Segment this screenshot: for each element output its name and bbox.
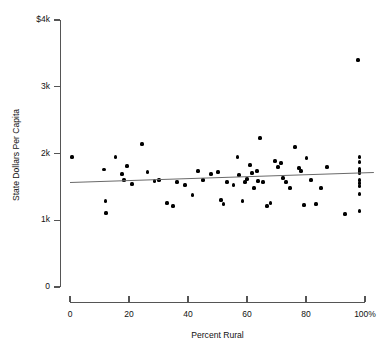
data-point (293, 145, 296, 148)
data-point (256, 179, 259, 182)
y-tick-4000 (54, 19, 60, 20)
data-point (236, 155, 239, 158)
data-point (241, 199, 244, 202)
y-tick-label-3000: 3k (24, 82, 50, 91)
data-point (146, 170, 149, 173)
y-axis-title: State Dollars Per Capita (11, 95, 21, 215)
data-point (356, 58, 359, 61)
x-tick-40 (187, 296, 188, 302)
data-point (252, 186, 255, 189)
data-point (175, 180, 178, 183)
data-point (325, 165, 328, 168)
y-tick-label-2000: 2k (24, 149, 50, 158)
data-point (281, 176, 284, 179)
data-point (279, 161, 282, 164)
data-point (309, 178, 312, 181)
data-point (299, 169, 302, 172)
data-point (219, 198, 222, 201)
data-point (140, 142, 143, 145)
x-axis-title: Percent Rural (70, 330, 365, 340)
x-tick-label-0: 0 (50, 310, 90, 319)
data-point (225, 180, 228, 183)
data-point (250, 171, 253, 174)
y-tick-1000 (54, 220, 60, 221)
data-point (104, 211, 107, 214)
data-point (358, 160, 361, 163)
data-point (222, 202, 225, 205)
data-point (265, 204, 268, 207)
x-tick-0 (69, 296, 70, 302)
data-point (165, 201, 168, 204)
x-tick-20 (128, 296, 129, 302)
x-tick-100 (364, 296, 365, 302)
y-tick-label-4000: $4k (24, 15, 50, 24)
data-point (358, 155, 361, 158)
data-point (104, 199, 107, 202)
data-point (130, 182, 133, 185)
data-point (284, 180, 287, 183)
data-point (258, 136, 261, 139)
data-point (305, 156, 308, 159)
data-point (245, 177, 248, 180)
y-tick-label-0: 0 (24, 282, 50, 291)
x-tick-label-80: 80 (286, 310, 326, 319)
x-tick-label-40: 40 (168, 310, 208, 319)
y-axis-line (60, 20, 61, 287)
data-point (248, 163, 251, 166)
data-point (302, 203, 305, 206)
data-point (273, 159, 276, 162)
data-point (358, 209, 361, 212)
x-tick-label-60: 60 (227, 310, 267, 319)
data-point (269, 201, 272, 204)
y-tick-label-1000: 1k (24, 215, 50, 224)
data-point (120, 172, 123, 175)
data-point (70, 155, 73, 158)
data-point (314, 202, 317, 205)
data-point (358, 184, 361, 187)
data-point (276, 165, 279, 168)
x-tick-label-100: 100% (345, 310, 385, 319)
data-point (102, 168, 105, 171)
data-point (209, 172, 212, 175)
plot-area: State Dollars Per Capita Percent Rural 0… (0, 0, 387, 359)
scatter-chart: State Dollars Per Capita Percent Rural 0… (0, 0, 387, 359)
x-tick-80 (305, 296, 306, 302)
data-point (343, 212, 346, 215)
data-point (201, 178, 204, 181)
data-point (191, 193, 194, 196)
data-point (125, 164, 128, 167)
y-tick-0 (54, 286, 60, 287)
data-point (171, 204, 174, 207)
data-point (261, 180, 264, 183)
y-tick-3000 (54, 86, 60, 87)
trend-line (70, 172, 374, 183)
x-tick-label-20: 20 (109, 310, 149, 319)
data-point (288, 186, 291, 189)
data-point (358, 192, 361, 195)
data-point (319, 186, 322, 189)
data-point (243, 180, 246, 183)
data-point (196, 169, 199, 172)
x-tick-60 (246, 296, 247, 302)
data-point (183, 183, 186, 186)
data-point (114, 155, 117, 158)
data-point (232, 183, 235, 186)
data-point (255, 169, 258, 172)
y-tick-2000 (54, 153, 60, 154)
data-point (216, 170, 219, 173)
x-axis-line (70, 302, 365, 303)
